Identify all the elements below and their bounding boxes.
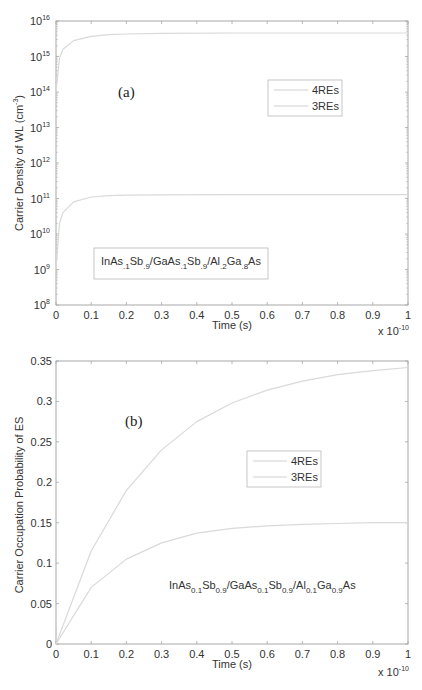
- y-tick-label: 0: [46, 638, 52, 650]
- y-tick-label: 0.25: [31, 436, 52, 448]
- figure: 00.10.20.30.40.50.60.70.80.91 1081091010…: [0, 0, 422, 690]
- x-tick-label: 0.3: [154, 309, 169, 321]
- chart-b-ylabel: Carrier Occupation Probability of ES: [13, 417, 25, 594]
- x-tick-label: 1: [405, 648, 411, 660]
- y-tick-label: 109: [34, 263, 50, 276]
- chart-b-legend-3res: 3REs: [291, 471, 318, 483]
- y-tick-label: 1016: [30, 14, 50, 27]
- x-tick-label: 0.7: [295, 648, 310, 660]
- x-tick-label: 0.7: [295, 309, 310, 321]
- chart-b-xlabel: Time (s): [212, 658, 252, 670]
- chart-a-x-multiplier: x 10-10: [378, 324, 409, 337]
- y-tick-label: 0.35: [31, 355, 52, 367]
- x-tick-label: 0.4: [189, 648, 204, 660]
- chart-a-annotation: InAs.1Sb.9/GaAs.1Sb.9/Al.2Ga.8As: [94, 248, 268, 279]
- y-tick-label: 1010: [30, 227, 50, 240]
- chart-a-ylabel: Carrier Density of WL (cm-3): [12, 95, 25, 231]
- x-tick-label: 0.9: [365, 309, 380, 321]
- y-tick-label: 108: [34, 298, 50, 311]
- y-tick-label: 1015: [30, 50, 50, 63]
- chart-a-xlabel: Time (s): [212, 319, 252, 331]
- x-tick-label: 0.6: [260, 648, 275, 660]
- chart-a-legend: 4REs 3REs: [268, 80, 342, 116]
- y-tick-label: 0.05: [31, 598, 52, 610]
- chart-b: 00.10.20.30.40.50.60.70.80.91 00.050.10.…: [13, 355, 411, 678]
- chart-a-legend-4res: 4REs: [312, 84, 339, 96]
- x-tick-label: 0.1: [84, 648, 99, 660]
- chart-b-legend-4res: 4REs: [291, 455, 318, 467]
- chart-b-x-multiplier: x 10-10: [378, 665, 409, 678]
- y-tick-label: 0.1: [37, 557, 52, 569]
- y-tick-label: 0.2: [37, 476, 52, 488]
- chart-b-panel-label: (b): [125, 413, 143, 430]
- x-tick-label: 0.8: [330, 648, 345, 660]
- x-tick-label: 0.2: [119, 648, 134, 660]
- y-tick-label: 1013: [30, 121, 50, 134]
- x-tick-label: 0: [53, 309, 59, 321]
- x-tick-label: 0: [53, 648, 59, 660]
- x-tick-label: 0.4: [189, 309, 204, 321]
- chart-a-legend-3res: 3REs: [312, 100, 339, 112]
- x-tick-label: 0.8: [330, 309, 345, 321]
- x-tick-label: 0.6: [260, 309, 275, 321]
- x-tick-label: 0.9: [365, 648, 380, 660]
- chart-b-legend: 4REs 3REs: [247, 451, 321, 487]
- y-tick-label: 1011: [30, 192, 50, 205]
- x-tick-label: 1: [405, 309, 411, 321]
- x-tick-label: 0.2: [119, 309, 134, 321]
- y-tick-label: 0.15: [31, 517, 52, 529]
- x-tick-label: 0.3: [154, 648, 169, 660]
- x-tick-label: 0.1: [84, 309, 99, 321]
- y-tick-label: 0.3: [37, 395, 52, 407]
- y-tick-label: 1012: [30, 156, 50, 169]
- chart-a-panel-label: (a): [118, 84, 135, 101]
- chart-a: 00.10.20.30.40.50.60.70.80.91 1081091010…: [12, 14, 411, 337]
- y-tick-label: 1014: [30, 85, 50, 98]
